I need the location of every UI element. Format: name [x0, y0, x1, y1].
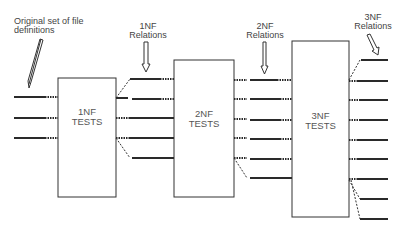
3nf-annotation-line2: Relations — [350, 22, 396, 31]
original-annotation-line2: definitions — [14, 26, 94, 35]
2nf-annotation-line2: Relations — [245, 31, 285, 40]
1nf-annotation-line2: Relations — [128, 31, 168, 40]
3nf-tests-line2: TESTS — [292, 121, 349, 131]
1nf-tests-label: 1NF TESTS — [58, 107, 116, 127]
1nf-pointer-arrow — [142, 42, 150, 72]
1nf-tests-box — [58, 78, 116, 197]
2nf-tests-line2: TESTS — [174, 119, 234, 129]
1nf-relations-annotation: 1NF Relations — [128, 22, 168, 40]
2nf-relation-lines — [234, 80, 292, 178]
3nf-tests-label: 3NF TESTS — [292, 111, 349, 131]
3nf-relations-annotation: 3NF Relations — [350, 13, 396, 31]
original-pointer-arrow — [28, 39, 43, 88]
1nf-tests-line2: TESTS — [58, 117, 116, 127]
original-annotation: Original set of file definitions — [14, 17, 94, 35]
2nf-pointer-arrow — [261, 42, 268, 74]
2nf-relations-annotation: 2NF Relations — [245, 22, 285, 40]
original-file-lines — [14, 97, 58, 138]
2nf-tests-label: 2NF TESTS — [174, 109, 234, 129]
3nf-relation-lines — [349, 60, 388, 219]
1nf-relation-lines — [116, 79, 174, 158]
3nf-pointer-arrow — [367, 34, 379, 55]
